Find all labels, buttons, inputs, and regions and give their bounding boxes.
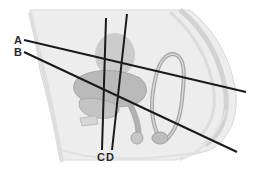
label-a: A	[14, 34, 22, 46]
label-c: C	[97, 151, 105, 163]
perineal-body	[131, 132, 143, 144]
label-d: D	[106, 151, 114, 163]
anatomy-illustration	[30, 10, 236, 162]
pubic-symphysis	[80, 116, 98, 126]
pelvis-section-diagram: A B C D	[0, 0, 258, 172]
label-b: B	[14, 46, 22, 58]
anal-sphincter	[152, 132, 168, 144]
